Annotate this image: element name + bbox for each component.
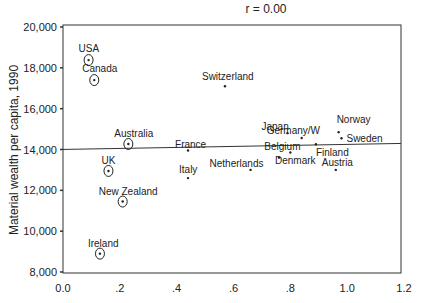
point-label: France — [175, 139, 207, 150]
data-point: Switzerland — [202, 71, 254, 87]
y-axis: 8,00010,00012,00014,00016,00018,00020,00… — [23, 21, 63, 278]
data-point: Austria — [322, 157, 354, 171]
x-tick-label: .2 — [115, 282, 124, 294]
point-label: Germany/W — [267, 125, 321, 136]
point-marker — [224, 85, 226, 87]
point-label: New Zealand — [99, 186, 158, 197]
point-label: Canada — [82, 63, 117, 74]
data-point: Canada — [82, 63, 117, 86]
data-point: Italy — [179, 164, 197, 179]
point-label: Australia — [114, 128, 153, 139]
y-tick-label: 12,000 — [23, 184, 57, 196]
point-marker — [87, 59, 89, 61]
data-point: New Zealand — [99, 186, 158, 208]
data-point: France — [175, 139, 207, 152]
point-label: Ireland — [88, 238, 119, 249]
x-tick-label: 1.0 — [340, 282, 355, 294]
point-marker — [249, 169, 251, 171]
point-marker — [301, 137, 303, 139]
regression-line — [63, 143, 401, 149]
x-tick-label: 0.0 — [55, 282, 70, 294]
point-label: Sweden — [346, 133, 382, 144]
data-points: USACanadaAustraliaUKNew ZealandIrelandSw… — [79, 43, 383, 259]
y-tick-label: 14,000 — [23, 144, 57, 156]
point-label: Belgium — [264, 141, 300, 152]
point-marker — [187, 149, 189, 151]
point-marker — [107, 170, 109, 172]
point-marker — [99, 252, 101, 254]
x-tick-label: .4 — [172, 282, 181, 294]
y-tick-label: 10,000 — [23, 225, 57, 237]
point-marker — [187, 177, 189, 179]
point-label: Italy — [179, 164, 197, 175]
data-point: Australia — [114, 128, 153, 150]
data-point: Belgium — [264, 141, 300, 154]
y-tick-label: 8,000 — [29, 266, 57, 278]
y-tick-label: 20,000 — [23, 21, 57, 33]
point-marker — [121, 200, 123, 202]
point-label: UK — [101, 155, 115, 166]
y-tick-label: 16,000 — [23, 103, 57, 115]
x-tick-label: 1.2 — [396, 282, 411, 294]
data-point: Ireland — [88, 238, 119, 260]
point-label: Norway — [337, 114, 371, 125]
chart-title: r = 0.00 — [245, 2, 286, 16]
point-label: Austria — [322, 157, 354, 168]
point-label: Denmark — [275, 155, 317, 166]
point-marker — [315, 143, 317, 145]
y-tick-label: 18,000 — [23, 62, 57, 74]
data-point: Netherlands — [210, 158, 264, 171]
data-point: Sweden — [340, 133, 382, 144]
data-point: UK — [101, 155, 115, 177]
data-point: Denmark — [275, 155, 317, 166]
point-marker — [335, 169, 337, 171]
point-marker — [289, 151, 291, 153]
x-tick-label: .6 — [229, 282, 238, 294]
point-marker — [127, 143, 129, 145]
data-point: Norway — [337, 114, 371, 133]
point-marker — [337, 131, 339, 133]
point-marker — [340, 137, 342, 139]
point-label: Switzerland — [202, 71, 254, 82]
point-marker — [93, 79, 95, 81]
data-point: Germany/W — [267, 125, 321, 139]
point-label: Netherlands — [210, 158, 264, 169]
point-label: USA — [79, 43, 100, 54]
scatter-chart: r = 0.00 Material wealth per capita, 199… — [0, 0, 429, 303]
y-axis-label: Material wealth per capita, 1990 — [7, 65, 21, 235]
x-axis: 0.0.2.4.6.81.01.2 — [55, 282, 411, 294]
x-tick-label: .8 — [286, 282, 295, 294]
